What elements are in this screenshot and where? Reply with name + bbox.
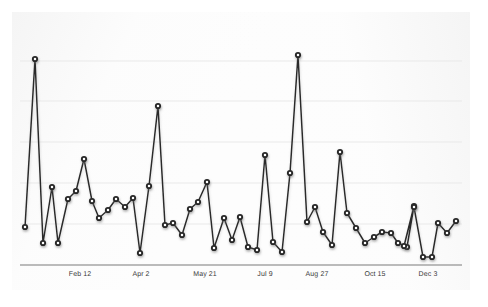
data-point-marker[interactable] (379, 229, 385, 235)
data-point-marker[interactable] (22, 224, 28, 230)
x-tick-label-4: Aug 27 (306, 271, 329, 278)
data-point-marker[interactable] (146, 183, 152, 189)
data-point-marker[interactable] (137, 250, 143, 256)
data-point-marker[interactable] (304, 219, 310, 225)
data-point-marker[interactable] (337, 149, 343, 155)
data-point-marker[interactable] (65, 196, 71, 202)
data-point-marker[interactable] (353, 225, 359, 231)
data-point-marker[interactable] (270, 239, 276, 245)
data-point-marker[interactable] (411, 204, 417, 210)
data-point-marker[interactable] (420, 254, 426, 260)
data-point-marker[interactable] (49, 184, 55, 190)
data-point-marker[interactable] (388, 230, 394, 236)
data-point-marker[interactable] (40, 240, 46, 246)
data-point-marker[interactable] (55, 240, 61, 246)
data-point-marker[interactable] (362, 240, 368, 246)
data-point-marker[interactable] (204, 179, 210, 185)
data-point-marker[interactable] (89, 198, 95, 204)
plot-area (0, 0, 488, 307)
data-point-marker[interactable] (105, 207, 111, 213)
data-line (25, 55, 456, 257)
data-point-marker[interactable] (395, 240, 401, 246)
x-tick-label-3: Jul 9 (257, 271, 272, 278)
data-point-marker[interactable] (81, 156, 87, 162)
data-point-marker[interactable] (237, 214, 243, 220)
x-tick-label-1: Apr 2 (132, 271, 149, 278)
data-point-marker[interactable] (371, 234, 377, 240)
data-point-marker[interactable] (170, 220, 176, 226)
data-point-marker[interactable] (32, 56, 38, 62)
data-point-marker[interactable] (287, 170, 293, 176)
data-point-marker[interactable] (401, 243, 407, 249)
data-point-marker[interactable] (221, 215, 227, 221)
data-point-marker[interactable] (435, 220, 441, 226)
data-point-marker[interactable] (329, 242, 335, 248)
data-point-marker[interactable] (312, 204, 318, 210)
data-point-marker[interactable] (320, 229, 326, 235)
data-point-marker[interactable] (344, 210, 350, 216)
data-point-marker[interactable] (162, 222, 168, 228)
x-tick-label-6: Dec 3 (419, 271, 438, 278)
data-point-marker[interactable] (254, 247, 260, 253)
data-point-marker[interactable] (122, 204, 128, 210)
data-point-marker[interactable] (155, 103, 161, 109)
data-point-marker[interactable] (444, 230, 450, 236)
line-chart: Feb 12Apr 2May 21Jul 9Aug 27Oct 15Dec 3 (0, 0, 488, 307)
x-tick-label-5: Oct 15 (364, 271, 385, 278)
data-point-marker[interactable] (295, 52, 301, 58)
data-point-marker[interactable] (453, 218, 459, 224)
data-point-marker[interactable] (130, 195, 136, 201)
data-point-marker[interactable] (279, 249, 285, 255)
data-point-marker[interactable] (73, 188, 79, 194)
data-point-marker[interactable] (179, 232, 185, 238)
data-point-marker[interactable] (245, 244, 251, 250)
data-markers (22, 52, 459, 260)
data-point-marker[interactable] (229, 237, 235, 243)
gridlines (20, 61, 462, 224)
data-point-marker[interactable] (187, 206, 193, 212)
x-tick-label-2: May 21 (193, 271, 217, 278)
data-point-marker[interactable] (262, 152, 268, 158)
data-point-marker[interactable] (195, 199, 201, 205)
data-point-marker[interactable] (96, 215, 102, 221)
x-tick-label-0: Feb 12 (69, 271, 91, 278)
data-point-marker[interactable] (113, 196, 119, 202)
data-point-marker[interactable] (211, 245, 217, 251)
data-point-marker[interactable] (429, 254, 435, 260)
